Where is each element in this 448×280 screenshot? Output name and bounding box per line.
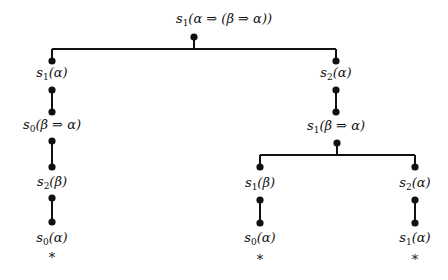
node-left-4: s0(α) bbox=[36, 231, 67, 247]
node-root: s1(α ⇒ (β ⇒ α)) bbox=[176, 12, 272, 28]
node-right-2: s1(β ⇒ α) bbox=[307, 119, 365, 135]
leaf-marker-left: * bbox=[49, 251, 56, 264]
node-left-2: s0(β ⇒ α) bbox=[23, 118, 81, 134]
leaf-marker-right: * bbox=[412, 253, 419, 266]
node-left-3: s2(β) bbox=[37, 175, 67, 191]
node-right-right-1: s2(α) bbox=[399, 176, 430, 192]
node-right-1: s2(α) bbox=[320, 66, 351, 82]
node-right-right-2: s1(α) bbox=[399, 231, 430, 247]
node-left-1: s1(α) bbox=[36, 66, 67, 82]
node-right-left-1: s1(β) bbox=[245, 176, 275, 192]
leaf-marker-middle: * bbox=[257, 253, 264, 266]
node-right-left-2: s0(α) bbox=[244, 231, 275, 247]
proof-tree: s1(α ⇒ (β ⇒ α)) s1(α) s0(β ⇒ α) s2(β) s0… bbox=[0, 0, 448, 280]
